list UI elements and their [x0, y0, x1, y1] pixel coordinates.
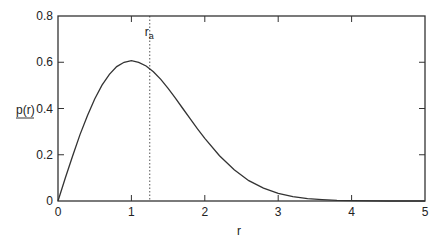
- ra-subscript: a: [149, 31, 154, 41]
- x-tick-label: 0: [55, 205, 62, 219]
- tick-labels: 01234500.20.40.60.8: [36, 9, 428, 219]
- axis-ticks: [58, 16, 425, 201]
- y-tick-label: 0.4: [36, 102, 53, 116]
- y-axis-label: p(r): [16, 103, 35, 117]
- y-tick-label: 0.2: [36, 148, 53, 162]
- x-axis-label: r: [237, 224, 241, 238]
- y-tick-label: 0.6: [36, 55, 53, 69]
- x-tick-label: 4: [348, 205, 355, 219]
- y-tick-label: 0.8: [36, 9, 53, 23]
- rayleigh-distribution-chart: 01234500.20.40.60.8 ra r p(r): [0, 0, 439, 239]
- x-tick-label: 5: [422, 205, 429, 219]
- probability-curve: [58, 61, 425, 201]
- x-tick-label: 2: [201, 205, 208, 219]
- plot-frame: [58, 16, 425, 201]
- x-tick-label: 1: [128, 205, 135, 219]
- y-tick-label: 0: [46, 194, 53, 208]
- x-tick-label: 3: [275, 205, 282, 219]
